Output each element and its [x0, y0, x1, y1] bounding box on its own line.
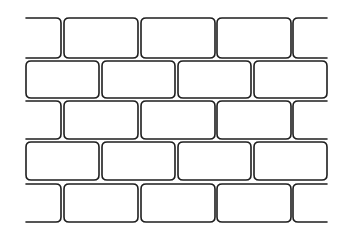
brick — [217, 18, 291, 58]
brick — [64, 18, 138, 58]
brick — [217, 184, 291, 222]
brick — [64, 101, 138, 139]
brick — [26, 61, 99, 98]
brick — [64, 184, 138, 222]
brick — [293, 101, 327, 139]
brick — [178, 61, 251, 98]
brick-row — [26, 61, 327, 98]
brick — [141, 101, 215, 139]
brick — [141, 18, 215, 58]
brick — [178, 142, 251, 180]
brick — [102, 61, 175, 98]
brick — [26, 18, 61, 58]
brick-row — [26, 18, 327, 58]
brick — [26, 101, 61, 139]
brick — [141, 184, 215, 222]
brick — [217, 101, 291, 139]
brick — [293, 184, 327, 222]
brick-row — [26, 142, 327, 180]
brick — [254, 142, 327, 180]
brick-row — [26, 184, 327, 222]
brick-row — [26, 101, 327, 139]
brick — [26, 184, 61, 222]
brick-wall-illustration — [0, 0, 346, 237]
brick — [293, 18, 327, 58]
brick — [102, 142, 175, 180]
brick — [26, 142, 99, 180]
brick — [254, 61, 327, 98]
